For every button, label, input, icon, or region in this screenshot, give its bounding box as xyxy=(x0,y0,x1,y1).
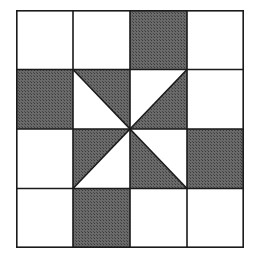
cell-r3-c1-dark xyxy=(73,189,130,249)
cell-r0-c2-dark xyxy=(73,10,130,70)
quilt-block-diagram xyxy=(16,10,244,248)
cell-r1-c0-dark xyxy=(16,70,73,130)
cell-r0-c2-dark-fill xyxy=(130,10,187,70)
cell-r2-c3-dark xyxy=(187,129,244,189)
